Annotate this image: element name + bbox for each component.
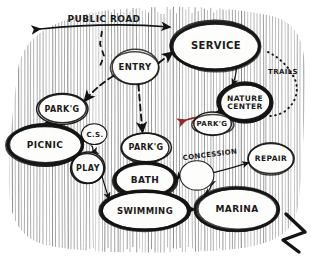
bubble-diagram-canvas: PUBLIC ROAD TRAILS ENTRYSERVICENATURECEN… bbox=[0, 0, 311, 259]
public-road-label: PUBLIC ROAD bbox=[68, 14, 141, 24]
bubble-cs[interactable]: C.S. bbox=[82, 124, 108, 146]
bubble-picnic[interactable]: PICNIC bbox=[6, 124, 83, 166]
north-arrow-icon bbox=[283, 214, 305, 252]
bubble-label-picnic: PICNIC bbox=[27, 140, 63, 150]
bubble-swimming[interactable]: SWIMMING bbox=[99, 191, 190, 231]
bubble-label-marina: MARINA bbox=[215, 204, 258, 214]
bubble-repair[interactable]: REPAIR bbox=[248, 143, 294, 175]
bubble-label-bath: BATH bbox=[131, 175, 159, 185]
bubble-concession[interactable]: CONCESSION bbox=[180, 148, 238, 191]
bubble-label-service: SERVICE bbox=[191, 40, 241, 51]
bubble-entry[interactable]: ENTRY bbox=[110, 49, 159, 84]
bubble-label-play: PLAY bbox=[76, 164, 100, 173]
bubble-marina[interactable]: MARINA bbox=[194, 187, 279, 231]
bubble-parkg-west[interactable]: PARK'G bbox=[37, 94, 88, 125]
bubble-label-cs: C.S. bbox=[86, 131, 103, 139]
bubble-parkg-center[interactable]: PARK'G bbox=[121, 133, 171, 163]
bubble-label-repair: REPAIR bbox=[255, 154, 287, 163]
bubble-label-parkg-center: PARK'G bbox=[128, 143, 163, 152]
bubble-label-parkg-west: PARK'G bbox=[44, 105, 79, 114]
north-arrow-mark bbox=[283, 214, 305, 252]
bubble-label-nature-center: NATURECENTER bbox=[227, 94, 263, 111]
bubble-label-entry: ENTRY bbox=[119, 62, 152, 72]
bubble-play[interactable]: PLAY bbox=[71, 152, 105, 184]
bubble-service[interactable]: SERVICE bbox=[171, 21, 261, 72]
bubble-label-swimming: SWIMMING bbox=[117, 206, 173, 216]
trails-label: TRAILS bbox=[268, 68, 298, 76]
diagram-svg: PUBLIC ROAD TRAILS ENTRYSERVICENATURECEN… bbox=[0, 0, 311, 259]
bubble-label-parkg-nature: PARK'G bbox=[196, 120, 227, 128]
